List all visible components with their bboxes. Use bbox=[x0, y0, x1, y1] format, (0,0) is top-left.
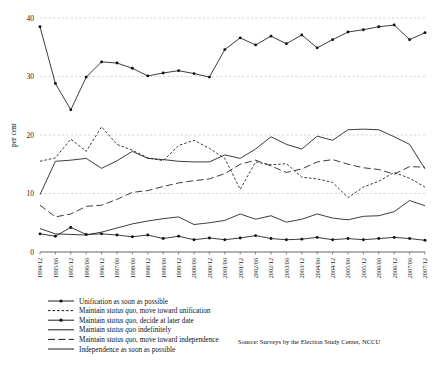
legend-label-2: Maintain status quo, decide at later dat… bbox=[79, 317, 194, 325]
x-tick-label-2003/12: 2003/12 bbox=[298, 258, 305, 278]
series-marker-2 bbox=[316, 46, 319, 49]
x-tick-label-1996/06: 1996/06 bbox=[83, 258, 90, 278]
x-tick-label-1995/12: 1995/12 bbox=[67, 258, 74, 278]
series-marker-2 bbox=[362, 28, 365, 31]
series-marker-2 bbox=[100, 60, 103, 63]
series-marker-0 bbox=[300, 238, 303, 241]
series-marker-0 bbox=[100, 232, 103, 235]
x-tick-label-2007/12: 2007/12 bbox=[421, 258, 428, 278]
series-marker-2 bbox=[285, 42, 288, 45]
legend-item-0[interactable]: Unification as soon as possible bbox=[48, 298, 168, 306]
series-line-4 bbox=[40, 160, 425, 217]
series-marker-0 bbox=[208, 237, 211, 240]
x-tick-labels: 1994/121995/061995/121996/061996/121997/… bbox=[36, 252, 428, 278]
series-marker-2 bbox=[162, 72, 165, 75]
series-3 bbox=[40, 129, 425, 195]
series-line-0 bbox=[40, 227, 425, 240]
series-marker-0 bbox=[408, 237, 411, 240]
series-marker-2 bbox=[116, 62, 119, 65]
legend-item-3[interactable]: Maintain status quo indefinitely bbox=[48, 326, 171, 334]
series-line-2 bbox=[40, 25, 425, 110]
series-line-3 bbox=[40, 129, 425, 195]
x-tick-label-2002/12: 2002/12 bbox=[267, 258, 274, 278]
series-marker-2 bbox=[39, 25, 42, 28]
x-tick-label-2001/12: 2001/12 bbox=[237, 258, 244, 278]
series-marker-0 bbox=[285, 238, 288, 241]
legend-label-1: Maintain status quo, move toward unifica… bbox=[79, 307, 211, 315]
y-tick-label-0: 0 bbox=[30, 248, 34, 257]
x-tick-label-2000/12: 2000/12 bbox=[206, 258, 213, 278]
x-tick-label-2006/06: 2006/06 bbox=[375, 258, 382, 278]
series-marker-0 bbox=[331, 238, 334, 241]
series-marker-0 bbox=[424, 239, 427, 242]
legend-item-2[interactable]: Maintain status quo, decide at later dat… bbox=[48, 317, 194, 325]
series-marker-0 bbox=[116, 234, 119, 237]
series-line-1 bbox=[40, 127, 425, 198]
x-tick-label-2005/06: 2005/06 bbox=[344, 258, 351, 278]
series-marker-2 bbox=[69, 108, 72, 111]
chart-canvas: 010203040per cent1994/121995/061995/1219… bbox=[0, 0, 442, 366]
x-tick-label-1997/06: 1997/06 bbox=[113, 258, 120, 278]
x-tick-label-2000/06: 2000/06 bbox=[190, 258, 197, 278]
series-marker-2 bbox=[193, 72, 196, 75]
x-tick-label-2007/06: 2007/06 bbox=[406, 258, 413, 278]
series-marker-0 bbox=[393, 236, 396, 239]
y-tick-label-30: 30 bbox=[27, 72, 35, 81]
y-tick-label-40: 40 bbox=[27, 14, 35, 23]
series-marker-0 bbox=[39, 232, 42, 235]
series-marker-0 bbox=[270, 237, 273, 240]
series-marker-0 bbox=[193, 238, 196, 241]
x-tick-label-2003/06: 2003/06 bbox=[283, 258, 290, 278]
series-1 bbox=[40, 127, 425, 198]
series-marker-0 bbox=[316, 236, 319, 239]
legend-item-4[interactable]: Maintain status quo, move toward indepen… bbox=[48, 336, 219, 344]
series-marker-0 bbox=[223, 238, 226, 241]
x-tick-label-2004/12: 2004/12 bbox=[329, 258, 336, 278]
x-tick-label-1994/12: 1994/12 bbox=[36, 258, 43, 278]
series-marker-2 bbox=[393, 24, 396, 27]
series-marker-0 bbox=[239, 237, 242, 240]
x-tick-label-2002/06: 2002/06 bbox=[252, 258, 259, 278]
series-marker-2 bbox=[254, 43, 257, 46]
source-note: Source: Surveys by the Election Study Ce… bbox=[238, 338, 380, 345]
series-marker-2 bbox=[347, 31, 350, 34]
legend-label-4: Maintain status quo, move toward indepen… bbox=[79, 336, 219, 344]
legend-item-5[interactable]: Independence as soon as possible bbox=[48, 346, 175, 354]
legend-label-5: Independence as soon as possible bbox=[79, 346, 175, 354]
series-marker-2 bbox=[300, 34, 303, 37]
legend-label-3: Maintain status quo indefinitely bbox=[79, 326, 171, 334]
series-marker-0 bbox=[347, 237, 350, 240]
chart-figure: 010203040per cent1994/121995/061995/1219… bbox=[0, 0, 442, 366]
series-marker-0 bbox=[362, 238, 365, 241]
y-tick-label-10: 10 bbox=[27, 189, 35, 198]
legend-label-0: Unification as soon as possible bbox=[79, 298, 168, 306]
series-2 bbox=[39, 24, 427, 112]
series-marker-2 bbox=[131, 67, 134, 70]
series-marker-0 bbox=[254, 234, 257, 237]
y-axis-title: per cent bbox=[9, 122, 18, 147]
x-tick-label-1996/12: 1996/12 bbox=[98, 258, 105, 278]
series-marker-2 bbox=[177, 69, 180, 72]
x-tick-label-1999/12: 1999/12 bbox=[175, 258, 182, 278]
series-marker-2 bbox=[377, 25, 380, 28]
series-marker-2 bbox=[146, 74, 149, 77]
series-marker-0 bbox=[146, 234, 149, 237]
x-tick-label-1999/06: 1999/06 bbox=[160, 258, 167, 278]
series-marker-2 bbox=[223, 48, 226, 51]
series-marker-0 bbox=[69, 226, 72, 229]
legend: Unification as soon as possibleMaintain … bbox=[48, 298, 219, 354]
legend-item-1[interactable]: Maintain status quo, move toward unifica… bbox=[48, 307, 211, 315]
series-marker-2 bbox=[85, 76, 88, 79]
x-tick-label-2004/06: 2004/06 bbox=[314, 258, 321, 278]
series-0 bbox=[39, 226, 427, 242]
series-marker-0 bbox=[131, 235, 134, 238]
x-tick-label-2006/12: 2006/12 bbox=[391, 258, 398, 278]
x-tick-label-1995/06: 1995/06 bbox=[52, 258, 59, 278]
series-marker-0 bbox=[377, 237, 380, 240]
series-marker-2 bbox=[239, 36, 242, 39]
legend-marker-2 bbox=[59, 319, 62, 322]
x-tick-label-1998/06: 1998/06 bbox=[129, 258, 136, 278]
legend-marker-0 bbox=[59, 299, 62, 302]
series-marker-2 bbox=[424, 31, 427, 34]
series-marker-0 bbox=[162, 237, 165, 240]
